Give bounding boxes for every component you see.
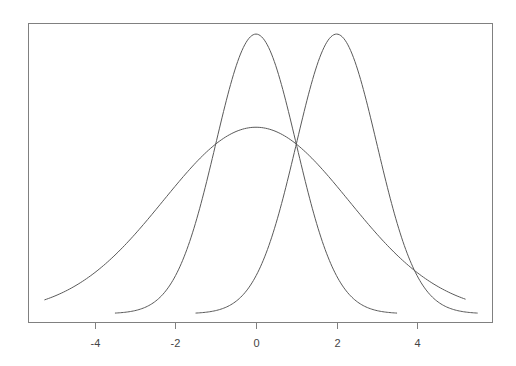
x-tick-label: -4 [91,337,101,349]
x-axis: -4-2024 [91,322,421,349]
x-tick-label: -2 [171,337,181,349]
x-tick-label: 4 [414,337,420,349]
density-curves [44,34,477,313]
density-chart: -4-2024 [0,0,516,366]
curve-1 [196,34,478,313]
x-tick-label: 2 [334,337,340,349]
curve-0 [115,34,397,313]
curve-2 [44,127,465,300]
x-tick-label: 0 [253,337,259,349]
plot-frame [29,24,493,323]
